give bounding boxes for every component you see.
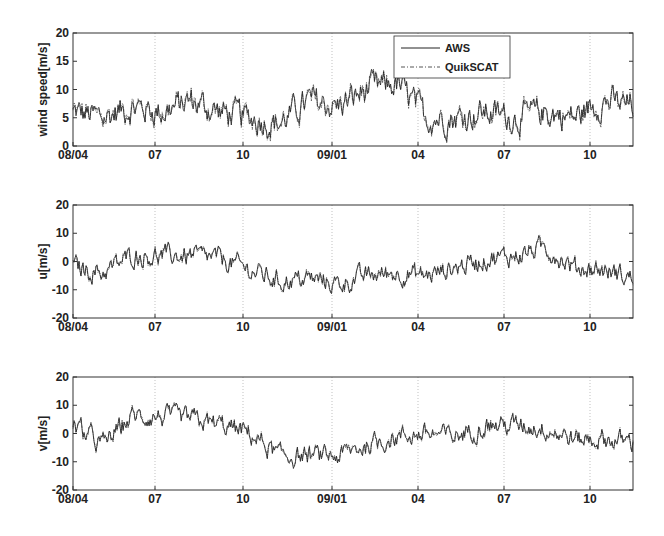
x-tick-label: 08/04 <box>58 492 88 506</box>
y-axis-label: wind speed[m/s] <box>36 42 50 137</box>
x-tick-label: 10 <box>583 148 597 162</box>
aws-line <box>73 69 633 141</box>
quikscat-line <box>73 235 633 293</box>
x-tick-label: 09/01 <box>317 320 347 334</box>
legend: AWSQuikSCAT <box>394 36 510 78</box>
x-tick-label: 04 <box>411 148 425 162</box>
x-tick-label: 07 <box>497 148 511 162</box>
x-tick-label: 10 <box>236 320 250 334</box>
x-tick-label: 08/04 <box>58 320 88 334</box>
x-tick-label: 10 <box>236 148 250 162</box>
v-component-panel: 20100-10-2008/04071009/01040710v[m/s] <box>36 370 633 506</box>
y-axis-label: v[m/s] <box>36 416 50 451</box>
wind-timeseries-figure: 2015105008/04071009/01040710wind speed[m… <box>0 0 664 536</box>
axes-box <box>73 33 633 146</box>
y-tick-label: 5 <box>62 111 69 125</box>
axes-box <box>73 377 633 490</box>
x-tick-label: 10 <box>583 492 597 506</box>
wind-speed-panel: 2015105008/04071009/01040710wind speed[m… <box>36 26 633 162</box>
x-tick-label: 10 <box>236 492 250 506</box>
y-tick-label: 10 <box>56 226 70 240</box>
y-tick-label: 10 <box>56 83 70 97</box>
x-tick-label: 10 <box>583 320 597 334</box>
x-tick-label: 09/01 <box>317 492 347 506</box>
y-tick-label: 20 <box>56 370 70 384</box>
x-tick-label: 07 <box>148 320 162 334</box>
y-tick-label: 0 <box>62 427 69 441</box>
x-tick-label: 09/01 <box>317 148 347 162</box>
x-tick-label: 07 <box>497 492 511 506</box>
y-tick-label: 20 <box>56 26 70 40</box>
x-tick-label: 08/04 <box>58 148 88 162</box>
u-component-panel: 20100-10-2008/04071009/01040710u[m/s] <box>36 198 633 334</box>
x-tick-label: 04 <box>411 492 425 506</box>
aws-line <box>73 403 633 468</box>
aws-line <box>73 236 633 294</box>
y-tick-label: 20 <box>56 198 70 212</box>
legend-quikscat-label: QuikSCAT <box>445 61 499 73</box>
x-tick-label: 07 <box>148 148 162 162</box>
y-tick-label: 10 <box>56 398 70 412</box>
x-tick-label: 07 <box>497 320 511 334</box>
x-tick-label: 04 <box>411 320 425 334</box>
legend-aws-label: AWS <box>445 42 470 54</box>
y-tick-label: -10 <box>52 283 70 297</box>
y-axis-label: u[m/s] <box>36 243 50 279</box>
y-tick-label: -10 <box>52 455 70 469</box>
x-tick-label: 07 <box>148 492 162 506</box>
quikscat-line <box>73 69 633 143</box>
axes-box <box>73 205 633 318</box>
y-tick-label: 15 <box>56 54 70 68</box>
y-tick-label: 0 <box>62 255 69 269</box>
